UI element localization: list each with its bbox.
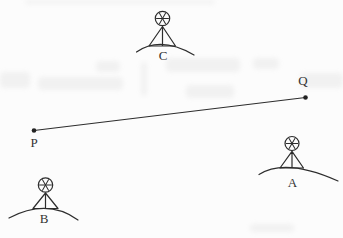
survey-station-icon bbox=[149, 11, 176, 46]
baseline-pq: P Q bbox=[30, 73, 308, 150]
wheel-spokes-icon bbox=[40, 180, 52, 190]
figure-canvas: P Q C bbox=[0, 0, 343, 238]
station-label-c: C bbox=[159, 48, 168, 63]
wheel-spokes-icon bbox=[157, 13, 169, 23]
wheel-spokes-icon bbox=[286, 138, 298, 148]
station-b: B bbox=[9, 178, 78, 226]
station-a: A bbox=[259, 137, 338, 191]
survey-station-icon bbox=[280, 137, 304, 169]
point-label-q: Q bbox=[298, 73, 308, 88]
station-c: C bbox=[137, 11, 195, 63]
point-p-dot bbox=[32, 128, 37, 133]
station-label-a: A bbox=[288, 175, 298, 190]
station-label-b: B bbox=[40, 211, 49, 226]
survey-station-icon bbox=[33, 178, 58, 209]
survey-diagram: P Q C bbox=[0, 0, 343, 238]
ground-arc bbox=[259, 167, 338, 181]
tripod bbox=[280, 151, 304, 168]
point-label-p: P bbox=[30, 135, 37, 150]
tripod bbox=[149, 27, 176, 47]
point-q-dot bbox=[303, 95, 308, 100]
baseline-segment bbox=[34, 98, 306, 131]
tripod bbox=[33, 193, 58, 209]
